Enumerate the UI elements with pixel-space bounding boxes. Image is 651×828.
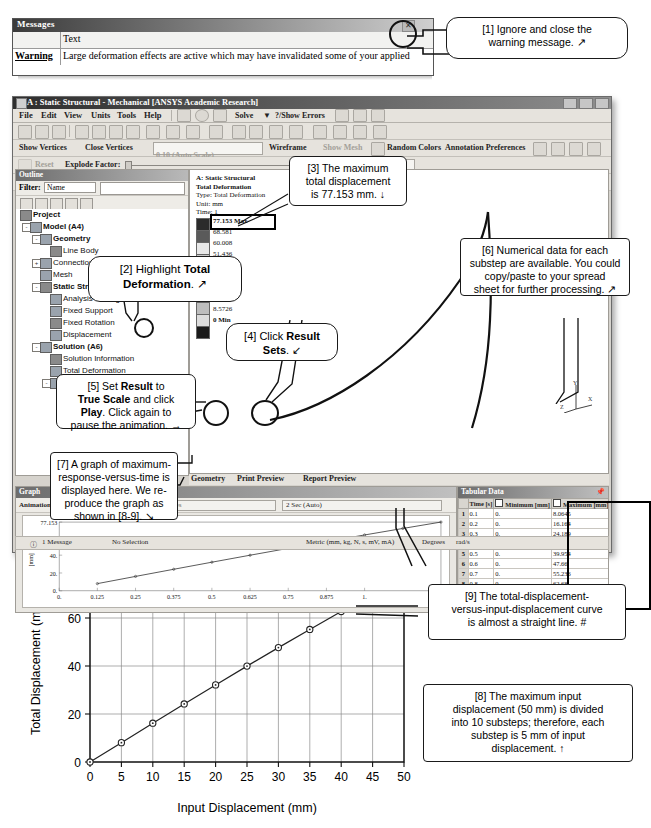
table-cell[interactable]: 6 bbox=[459, 559, 469, 569]
table-cell[interactable]: 0.5 bbox=[468, 549, 494, 559]
random-colors-button[interactable]: Random Colors bbox=[387, 143, 441, 152]
rotate-icon[interactable] bbox=[209, 125, 223, 139]
tabular-col-header[interactable] bbox=[459, 499, 469, 509]
node-select-icon[interactable] bbox=[146, 125, 160, 139]
menu-item-tools[interactable]: Tools bbox=[117, 110, 136, 120]
show-mesh-button[interactable]: Show Mesh bbox=[323, 143, 362, 152]
refresh-icon[interactable] bbox=[195, 109, 209, 122]
show-errors-button[interactable]: ?/Show Errors bbox=[275, 111, 325, 120]
menu-item-help[interactable]: Help bbox=[144, 110, 161, 120]
table-row[interactable]: 50.50.39.954 bbox=[459, 549, 609, 559]
tree-item-solution-a6[interactable]: -Solution (A6) bbox=[16, 341, 188, 353]
table-row[interactable]: 70.70.55.236 bbox=[459, 569, 609, 579]
new-icon[interactable] bbox=[177, 109, 191, 122]
scale-combo[interactable]: 0.10 (Auto Scale) bbox=[153, 142, 263, 155]
table-cell[interactable]: 0. bbox=[494, 519, 552, 529]
tabular-col-header[interactable]: Time [s] bbox=[468, 499, 494, 509]
outline-tree[interactable]: Project-Model (A4)-GeometryLine Body+Con… bbox=[16, 209, 188, 475]
toolbar-graphics[interactable] bbox=[13, 123, 611, 140]
table-row[interactable]: 60.60.47.66 bbox=[459, 559, 609, 569]
graphics-tab-row[interactable]: Geometry Print Preview Report Preview bbox=[189, 474, 609, 485]
menu-item-file[interactable]: File bbox=[19, 110, 33, 120]
table-cell[interactable]: 0. bbox=[494, 569, 552, 579]
pin-icon[interactable]: 📌 bbox=[596, 488, 605, 496]
window-controls[interactable] bbox=[563, 98, 609, 109]
menu-item-view[interactable]: View bbox=[64, 110, 82, 120]
maximize-icon[interactable] bbox=[579, 98, 593, 109]
vertex-filter-icon[interactable] bbox=[75, 125, 89, 139]
annotation-icon-2[interactable] bbox=[551, 142, 565, 156]
element-select-icon[interactable] bbox=[166, 125, 180, 139]
report-icon[interactable] bbox=[371, 109, 385, 122]
select-mode-icon[interactable] bbox=[18, 125, 32, 139]
annotation-icon-4[interactable] bbox=[587, 142, 601, 156]
dropdown-arrow-icon[interactable]: ▼ bbox=[263, 111, 271, 120]
annotation-icon-1[interactable] bbox=[533, 142, 547, 156]
zoom-in-icon[interactable] bbox=[269, 125, 283, 139]
table-cell[interactable]: 0.1 bbox=[468, 509, 494, 519]
table-cell[interactable]: 16.164 bbox=[551, 519, 608, 529]
cursor-icon[interactable] bbox=[35, 125, 49, 139]
tabular-col-header[interactable]: Minimum [mm] bbox=[494, 499, 552, 509]
message-row[interactable]: Warning Large deformation effects are ac… bbox=[13, 49, 433, 65]
table-cell[interactable]: 5 bbox=[459, 549, 469, 559]
tree-item-geometry[interactable]: -Geometry bbox=[16, 233, 188, 245]
table-cell[interactable]: 55.236 bbox=[551, 569, 608, 579]
tree-item-displacement[interactable]: Displacement bbox=[16, 329, 188, 341]
table-cell[interactable]: 47.66 bbox=[551, 559, 608, 569]
tree-item-solution-information[interactable]: Solution Information bbox=[16, 353, 188, 365]
filter-select[interactable]: Name bbox=[44, 182, 96, 193]
annotation-icon-3[interactable] bbox=[569, 142, 583, 156]
annotation-preferences-button[interactable]: Annotation Preferences bbox=[445, 143, 525, 152]
tab-report-preview[interactable]: Report Preview bbox=[303, 474, 356, 483]
table-row[interactable]: 10.10.8.0645 bbox=[459, 509, 609, 519]
magnifier-icon[interactable] bbox=[333, 125, 347, 139]
tree-item-model-a4[interactable]: -Model (A4) bbox=[16, 221, 188, 233]
minimize-icon[interactable] bbox=[563, 98, 577, 109]
wireframe-button[interactable]: Wireframe bbox=[269, 143, 306, 152]
table-cell[interactable]: 0.2 bbox=[468, 519, 494, 529]
body-filter-icon[interactable] bbox=[126, 125, 140, 139]
query-icon[interactable] bbox=[353, 125, 367, 139]
rotate-free-icon[interactable] bbox=[232, 125, 246, 139]
table-cell[interactable]: 39.954 bbox=[551, 549, 608, 559]
outline-filter-row[interactable]: Filter: Name bbox=[16, 181, 188, 196]
table-cell[interactable]: 0.6 bbox=[468, 559, 494, 569]
menu-item-units[interactable]: Units bbox=[91, 110, 110, 120]
box-select-icon[interactable] bbox=[52, 125, 66, 139]
pan-icon[interactable] bbox=[249, 125, 263, 139]
table-cell[interactable]: 8.0645 bbox=[551, 509, 608, 519]
table-cell[interactable]: 1 bbox=[459, 509, 469, 519]
table-cell[interactable]: 7 bbox=[459, 569, 469, 579]
close-icon[interactable] bbox=[595, 98, 609, 109]
table-row[interactable]: 20.20.16.164 bbox=[459, 519, 609, 529]
extend-select-icon[interactable] bbox=[186, 125, 200, 139]
tree-item-project[interactable]: Project bbox=[16, 209, 188, 221]
menu-bar[interactable]: File Edit View Units Tools Help Solve ▼ … bbox=[13, 109, 611, 123]
table-cell[interactable]: 2 bbox=[459, 519, 469, 529]
tab-print-preview[interactable]: Print Preview bbox=[237, 474, 284, 483]
edge-filter-icon[interactable] bbox=[92, 125, 106, 139]
zoom-box-icon[interactable] bbox=[289, 125, 303, 139]
random-colors-icon[interactable] bbox=[371, 142, 385, 156]
table-cell[interactable]: 0. bbox=[494, 559, 552, 569]
close-vertices-button[interactable]: Close Vertices bbox=[85, 143, 133, 152]
worksheet-icon[interactable] bbox=[335, 109, 349, 122]
filter-input[interactable] bbox=[100, 182, 185, 195]
solve-button[interactable]: Solve bbox=[235, 111, 253, 120]
table-cell[interactable]: 0.7 bbox=[468, 569, 494, 579]
image-icon[interactable] bbox=[353, 109, 367, 122]
toolbar-display[interactable]: Show Vertices Close Vertices 0.10 (Auto … bbox=[13, 140, 611, 157]
face-filter-icon[interactable] bbox=[109, 125, 123, 139]
status-messages[interactable]: 1 Message bbox=[42, 538, 72, 546]
table-cell[interactable]: 0. bbox=[494, 509, 552, 519]
link-icon[interactable] bbox=[213, 109, 227, 122]
tree-item-label: Model (A4) bbox=[43, 222, 84, 231]
menu-item-edit[interactable]: Edit bbox=[41, 110, 57, 120]
zoom-fit-icon[interactable] bbox=[313, 125, 327, 139]
search-icon[interactable] bbox=[373, 125, 387, 139]
show-vertices-button[interactable]: Show Vertices bbox=[19, 143, 67, 152]
explode-slider-track[interactable] bbox=[125, 165, 305, 166]
table-cell[interactable]: 0. bbox=[494, 549, 552, 559]
tabular-col-header[interactable]: Maximum [mm] bbox=[551, 499, 608, 509]
